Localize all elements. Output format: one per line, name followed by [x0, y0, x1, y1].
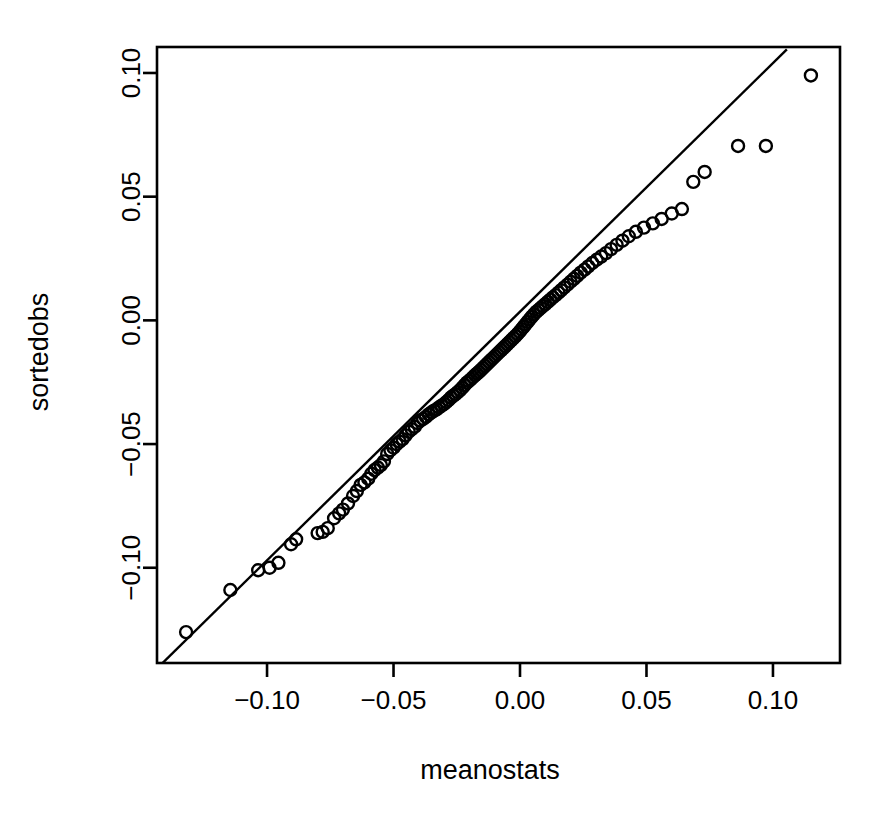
x-axis-tick-label: 0.00 — [495, 685, 546, 715]
y-axis-tick-label: 0.05 — [116, 171, 146, 222]
x-axis-tick-label: 0.10 — [748, 685, 799, 715]
x-axis-tick-label: 0.05 — [621, 685, 672, 715]
y-axis-tick-label: 0.10 — [116, 48, 146, 99]
y-axis-tick-label: −0.05 — [116, 411, 146, 477]
y-axis-tick-label: 0.00 — [116, 295, 146, 346]
y-axis-title: sortedobs — [24, 293, 54, 412]
qq-plot-canvas: −0.10−0.050.000.050.10 −0.10−0.050.000.0… — [0, 0, 883, 814]
x-axis-tick-label: −0.05 — [361, 685, 427, 715]
x-axis-title: meanostats — [420, 755, 560, 785]
qq-plot-figure: −0.10−0.050.000.050.10 −0.10−0.050.000.0… — [0, 0, 883, 814]
y-axis-tick-label: −0.10 — [116, 535, 146, 601]
x-axis-tick-label: −0.10 — [234, 685, 300, 715]
